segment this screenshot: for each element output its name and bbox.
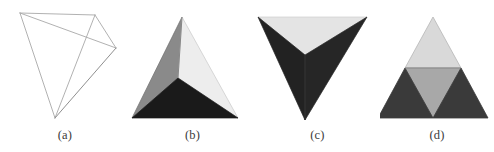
subtriangle-top bbox=[405, 17, 461, 68]
figure-panel-c: (c) bbox=[255, 0, 380, 152]
wireframe-edge-hidden bbox=[55, 48, 116, 118]
figure-panel-d: (d) bbox=[380, 0, 494, 152]
tetrahedron-shaded-c bbox=[255, 0, 380, 128]
caption-c: (c) bbox=[255, 128, 380, 142]
tetrahedron-shaded-b bbox=[130, 0, 255, 128]
tetrahedron-subdivided-d bbox=[380, 0, 494, 128]
figure-panel: (a) (b) (c) (d) bbox=[0, 0, 494, 152]
wireframe-edge bbox=[95, 15, 116, 48]
caption-a: (a) bbox=[0, 128, 130, 142]
caption-b: (b) bbox=[130, 128, 255, 142]
figure-panel-b: (b) bbox=[130, 0, 255, 152]
caption-d: (d) bbox=[380, 128, 494, 142]
wireframe-edge bbox=[20, 13, 95, 15]
tetrahedron-wireframe-a bbox=[0, 0, 130, 128]
wireframe-edge bbox=[55, 15, 95, 118]
figure-panel-a: (a) bbox=[0, 0, 130, 152]
wireframe-edge bbox=[20, 13, 55, 118]
wireframe-edge bbox=[20, 13, 116, 48]
